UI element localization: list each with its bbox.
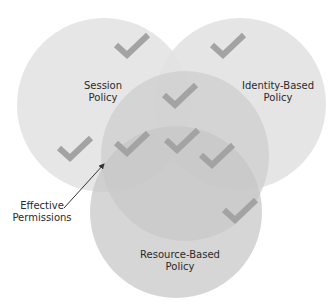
session-policy-label-line1: Session bbox=[73, 80, 133, 92]
resource-policy-label-line1: Resource-Based bbox=[135, 249, 225, 261]
session-policy-label-line2: Policy bbox=[73, 92, 133, 104]
effective-permissions-label: Effective Permissions bbox=[12, 200, 72, 224]
identity-policy-label-line1: Identity-Based bbox=[233, 80, 323, 92]
effective-permissions-label-line1: Effective bbox=[12, 200, 72, 212]
session-policy-label: Session Policy bbox=[73, 80, 133, 104]
effective-permissions-label-line2: Permissions bbox=[12, 212, 72, 224]
resource-policy-label-line2: Policy bbox=[135, 261, 225, 273]
identity-policy-label-line2: Policy bbox=[233, 92, 323, 104]
resource-policy-label: Resource-Based Policy bbox=[135, 249, 225, 273]
identity-policy-label: Identity-Based Policy bbox=[233, 80, 323, 104]
